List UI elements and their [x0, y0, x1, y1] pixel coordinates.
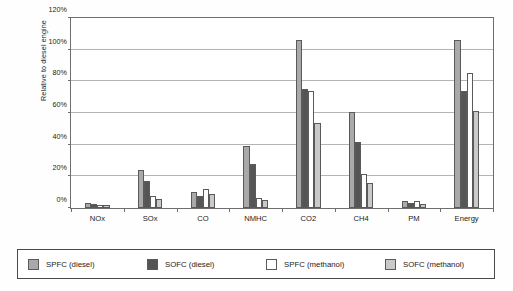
bar	[191, 192, 197, 208]
bars-layer	[71, 18, 493, 208]
y-axis-tick-label: 40%	[53, 131, 67, 140]
y-axis-tick-label: 0%	[57, 195, 67, 204]
y-axis-label: Relative to diesel engine	[39, 0, 48, 136]
category-tick-mark	[124, 208, 125, 212]
bar	[97, 205, 103, 208]
bar	[308, 91, 314, 208]
legend-swatch-icon	[147, 259, 158, 270]
legend-swatch-icon	[28, 259, 39, 270]
bar	[256, 198, 262, 208]
legend-swatch-icon	[266, 259, 277, 270]
category-label: CH4	[354, 214, 369, 223]
bar	[138, 170, 144, 208]
bar	[250, 164, 256, 208]
bar	[414, 201, 420, 208]
legend-item-label: SPFC (diesel)	[46, 260, 95, 269]
bar	[156, 199, 162, 208]
category-tick-mark	[388, 208, 389, 212]
chart-legend: SPFC (diesel)SOFC (diesel)SPFC (methanol…	[17, 249, 495, 279]
category-tick-mark	[493, 208, 494, 212]
bar	[203, 189, 209, 208]
category-tick-mark	[229, 208, 230, 212]
legend-swatch-icon	[385, 259, 396, 270]
category-tick-mark	[335, 208, 336, 212]
bar	[467, 73, 473, 208]
bar	[296, 40, 302, 208]
category-label: CO2	[301, 214, 317, 223]
category-tick-mark	[71, 208, 72, 212]
legend-item[interactable]: SOFC (diesel)	[137, 259, 256, 270]
bar	[150, 196, 156, 208]
plot-frame: 0%20%40%60%80%100%120% NOxSOxCONMHCCO2CH…	[70, 17, 494, 209]
category-label: Energy	[455, 214, 479, 223]
bar	[103, 205, 109, 208]
legend-item[interactable]: SPFC (methanol)	[256, 259, 375, 270]
bar	[454, 40, 460, 208]
category-label: NOx	[90, 214, 105, 223]
bar	[355, 142, 361, 209]
y-axis-tick-label: 80%	[53, 68, 67, 77]
category-label: PM	[408, 214, 419, 223]
bar	[314, 123, 320, 208]
bar	[361, 174, 367, 208]
y-axis-tick-label: 20%	[53, 163, 67, 172]
bar	[262, 200, 268, 208]
category-tick-mark	[282, 208, 283, 212]
category-label: SOx	[143, 214, 158, 223]
legend-item-label: SOFC (methanol)	[403, 260, 464, 269]
category-label: NMHC	[244, 214, 267, 223]
bar-chart-figure: Relative to diesel engine 0%20%40%60%80%…	[0, 0, 513, 291]
bar	[420, 204, 426, 208]
bar	[349, 112, 355, 208]
legend-item-label: SOFC (diesel)	[165, 260, 214, 269]
chart-plot-area: Relative to diesel engine 0%20%40%60%80%…	[14, 8, 500, 238]
bar	[243, 146, 249, 208]
bar	[461, 91, 467, 208]
legend-item[interactable]: SOFC (methanol)	[375, 259, 494, 270]
bar	[91, 204, 97, 208]
bar	[144, 181, 150, 208]
legend-item[interactable]: SPFC (diesel)	[18, 259, 137, 270]
bar	[209, 194, 215, 208]
bar	[302, 89, 308, 208]
bar	[408, 203, 414, 208]
y-axis-tick-label: 100%	[49, 36, 67, 45]
category-tick-mark	[440, 208, 441, 212]
category-label: CO	[197, 214, 208, 223]
bar	[367, 183, 373, 208]
bar	[402, 201, 408, 208]
bar	[197, 196, 203, 208]
legend-item-label: SPFC (methanol)	[284, 260, 344, 269]
y-axis-tick-label: 120%	[49, 5, 67, 14]
category-tick-mark	[177, 208, 178, 212]
y-axis-tick-label: 60%	[53, 100, 67, 109]
bar	[85, 203, 91, 208]
bar	[473, 111, 479, 208]
